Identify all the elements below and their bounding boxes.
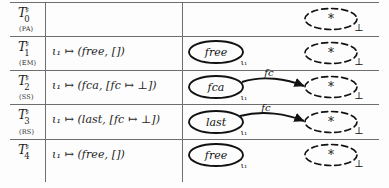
environment-formula: ι₁ ↦ (free, []) (52, 148, 125, 161)
dashed-node-group: * ⊥ (305, 145, 364, 170)
table-row: T♯4 ι₁ ↦ (free, []) free ι₁ * (10, 139, 379, 182)
table: T♯0 (PA) * ⊥ (10, 2, 379, 182)
state-subscript: 0 (24, 14, 29, 24)
solid-node-label: fca (207, 81, 225, 94)
environment-cell: ι₁ ↦ (free, []) (46, 36, 182, 70)
table-row: T♯0 (PA) * ⊥ (10, 2, 379, 36)
state-subscript: 1 (24, 48, 29, 58)
solid-node-label: last (206, 116, 227, 129)
environment-cell: ι₁ ↦ (last, [fc ↦ ⊥]) (46, 104, 182, 139)
state-cell: T♯0 (PA) (10, 2, 45, 36)
table-row: T♯3 (RS) ι₁ ↦ (last, [fc ↦ ⊥]) last (10, 104, 379, 139)
solid-node-sublabel: ι₁ (241, 58, 247, 67)
table-row: T♯1 (EM) ι₁ ↦ (free, []) free ι₁ * (10, 36, 379, 70)
environment-formula: ι₁ ↦ (free, []) (52, 45, 125, 58)
edge-group: fc (240, 102, 304, 121)
environment-cell: ι₁ ↦ (fca, [fc ↦ ⊥]) (46, 70, 182, 104)
heap-graph: free ι₁ * ⊥ (183, 139, 379, 182)
dashed-node-sublabel: ⊥ (354, 56, 363, 67)
environment-formula: ι₁ ↦ (fca, [fc ↦ ⊥]) (52, 79, 157, 92)
edge-group: fc (242, 67, 304, 86)
edge-arrow (240, 113, 304, 121)
dashed-node-sublabel: ⊥ (354, 158, 363, 169)
state-subscript: 3 (24, 116, 29, 126)
state-cell: T♯4 (10, 139, 45, 182)
dashed-node-label: * (328, 80, 334, 94)
heap-graph: fca ι₁ fc * ⊥ (183, 70, 379, 104)
heap-graph-cell: * ⊥ (183, 2, 379, 36)
state-label: T♯3 (18, 108, 36, 124)
dashed-node-sublabel: ⊥ (354, 22, 363, 33)
state-cell: T♯1 (EM) (10, 36, 45, 70)
solid-node-group: free ι₁ (189, 41, 247, 67)
state-label: T♯4 (18, 143, 36, 159)
dashed-node-label: * (328, 148, 334, 162)
rule-label: (SS) (19, 93, 34, 101)
rule-label: (EM) (19, 59, 36, 67)
heap-graph: * ⊥ (183, 2, 379, 36)
heap-graph: free ι₁ * ⊥ (183, 36, 379, 70)
table-row: T♯2 (SS) ι₁ ↦ (fca, [fc ↦ ⊥]) fca (10, 70, 379, 104)
dashed-node-label: * (328, 46, 334, 60)
solid-node-sublabel: ι₁ (241, 161, 247, 170)
state-label: T♯0 (18, 6, 36, 22)
rule-label: (RS) (19, 128, 34, 136)
edge-label: fc (260, 102, 271, 113)
solid-node-label: free (204, 46, 228, 59)
heap-graph: last ι₁ fc * ⊥ (183, 104, 379, 139)
heap-graph-cell: last ι₁ fc * ⊥ (183, 104, 379, 139)
edge-arrow (242, 78, 304, 86)
environment-formula: ι₁ ↦ (last, [fc ↦ ⊥]) (52, 113, 160, 126)
solid-node-group: last ι₁ (189, 111, 247, 137)
solid-node-group: fca ι₁ (189, 76, 247, 102)
environment-cell (46, 2, 182, 36)
dashed-node-sublabel: ⊥ (354, 90, 363, 101)
solid-node-label: free (204, 149, 228, 162)
state-cell: T♯3 (RS) (10, 104, 45, 139)
state-label: T♯2 (18, 74, 36, 90)
transition-table-figure: T♯0 (PA) * ⊥ (0, 0, 389, 188)
solid-node-group: free ι₁ (189, 144, 247, 170)
state-subscript: 4 (24, 151, 29, 161)
rule-label: (PA) (19, 25, 33, 33)
dashed-node-group: * ⊥ (305, 43, 364, 68)
dashed-node-label: * (328, 12, 334, 26)
dashed-node-label: * (328, 115, 334, 129)
state-label: T♯1 (18, 40, 36, 56)
dashed-node-group: * ⊥ (305, 9, 364, 34)
heap-graph-cell: fca ι₁ fc * ⊥ (183, 70, 379, 104)
dashed-node-group: * ⊥ (305, 112, 364, 137)
dashed-node-sublabel: ⊥ (354, 125, 363, 136)
state-cell: T♯2 (SS) (10, 70, 45, 104)
heap-graph-cell: free ι₁ * ⊥ (183, 139, 379, 182)
dashed-node-group: * ⊥ (305, 77, 364, 102)
edge-label: fc (263, 67, 274, 78)
environment-cell: ι₁ ↦ (free, []) (46, 139, 182, 182)
solid-node-sublabel: ι₁ (241, 93, 247, 102)
state-subscript: 2 (24, 82, 29, 92)
heap-graph-cell: free ι₁ * ⊥ (183, 36, 379, 70)
solid-node-sublabel: ι₁ (241, 128, 247, 137)
